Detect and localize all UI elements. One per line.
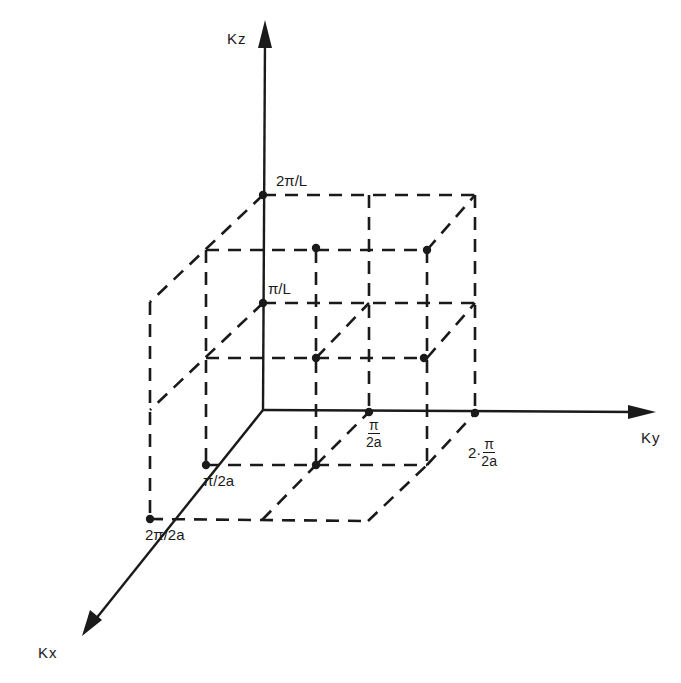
fraction-denominator: 2a [481, 453, 497, 468]
kx-tick-pi-over-2a: π/2a [203, 473, 234, 488]
lattice-point [312, 354, 320, 362]
kx-tick-2-text: 2π/2a [145, 526, 185, 543]
lattice-point [259, 191, 267, 199]
ky-tick-2pi-over-2a: 2· π 2a [468, 437, 497, 468]
k-space-lattice-diagram [0, 0, 681, 683]
lattice-point [146, 515, 154, 523]
fraction-numerator: π [483, 437, 495, 453]
kx-tick-2pi-over-2a: 2π/2a [145, 527, 185, 542]
dashed-grid-line [150, 195, 263, 302]
ky-tick-pi-over-2a: π 2a [366, 418, 382, 449]
ky-tick-1-fraction: π 2a [366, 418, 382, 449]
fraction-denominator: 2a [366, 434, 382, 449]
dashed-grid-line [427, 195, 475, 250]
ky-arrow-icon [628, 405, 656, 419]
fraction-numerator: π [368, 418, 380, 434]
kz-tick-pi-over-l: π/L [268, 281, 291, 296]
dashed-grid-line [316, 303, 369, 358]
kz-tick-2pi-over-l: 2π/L [276, 173, 307, 188]
kx-axis [95, 410, 263, 620]
lattice-point [312, 461, 320, 469]
dashed-grid-line [316, 412, 369, 465]
lattice-point [312, 244, 320, 252]
lattice-point [420, 354, 428, 362]
lattice-point [202, 461, 210, 469]
lattice-point [365, 408, 373, 416]
kz-arrow-icon [258, 20, 272, 48]
lattice-point [259, 299, 267, 307]
dashed-grid-line [368, 465, 427, 521]
dashed-grid-line [427, 303, 475, 358]
lattice-point [423, 246, 431, 254]
dashed-grid-line [262, 465, 316, 520]
kz-tick-1-text: π/L [268, 280, 291, 297]
kz-axis-label: Kz [227, 31, 247, 46]
fraction-prefix: 2· [468, 444, 481, 461]
kx-axis-label: Kx [38, 645, 58, 660]
kx-tick-1-text: π/2a [203, 472, 234, 489]
dashed-grid-line [150, 519, 368, 521]
ky-tick-2-fraction: π 2a [481, 437, 497, 468]
ky-axis-label: Ky [641, 430, 661, 445]
kz-axis [263, 40, 265, 410]
ky-axis [263, 410, 636, 412]
kz-tick-2-text: 2π/L [276, 172, 307, 189]
lattice-point [471, 409, 479, 417]
